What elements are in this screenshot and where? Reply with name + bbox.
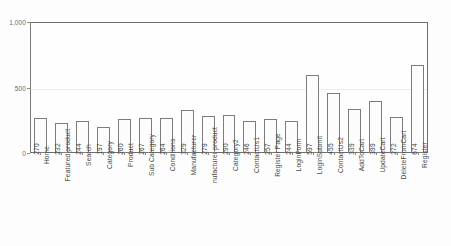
x-tick-mark [145,153,146,155]
bar-group: 455 [327,22,340,153]
bar-group: 399 [369,22,382,153]
bar-group: 339 [348,22,361,153]
x-tick-mark [124,153,125,155]
x-axis-tick-label: Conditions [169,139,176,172]
bar-value-label: 264 [159,143,166,155]
x-tick-mark [355,153,356,155]
x-axis-tick-label: Category [106,141,113,169]
x-axis-tick-label: Register Page [274,133,281,177]
bar-group: 244 [76,22,89,153]
x-axis-tick-label: Register [421,142,428,168]
bar-value-label: 246 [243,143,250,155]
bar-value-label: 267 [138,143,145,155]
bar-group: 260 [118,22,131,153]
y-axis: 05001,000 [0,0,30,246]
bar-value-label: 339 [348,143,355,155]
x-axis-tick-label: DeleteFromCart [400,131,407,180]
x-tick-mark [376,153,377,155]
bars-layer: 2702322441972602672643292792902462572445… [30,22,428,153]
x-tick-mark [271,153,272,155]
bar-value-label: 272 [390,143,397,155]
x-axis-tick-label: Product [127,143,134,167]
bar-group: 246 [243,22,256,153]
x-tick-mark [250,153,251,155]
x-axis-tick-label: Category2 [232,139,239,171]
x-tick-mark [229,153,230,155]
x-axis-tick-label: UpdateCart [379,137,386,172]
bar-value-label: 279 [201,143,208,155]
x-tick-mark [187,153,188,155]
bar-group: 264 [160,22,173,153]
x-axis-tick-label: AddToCart [358,139,365,172]
bar-group: 244 [285,22,298,153]
bar: 674 [411,65,424,153]
bar-value-label: 244 [75,143,82,155]
x-axis-tick-label: nufacturer product [211,127,218,183]
bar-value-label: 329 [180,143,187,155]
x-tick-mark [40,153,41,155]
y-tick-mark [27,153,30,154]
bar-value-label: 674 [411,143,418,155]
x-axis-tick-label: LoginForm [295,139,302,172]
bar-value-label: 597 [306,143,313,155]
bar-value-label: 455 [327,143,334,155]
x-tick-mark [418,153,419,155]
x-axis-tick-label: Home [43,146,50,164]
y-tick-label: 0 [22,150,26,157]
x-tick-mark [397,153,398,155]
x-axis-labels: HomeFeatured productSearchCategoryProduc… [30,155,428,246]
x-axis-tick-label: Featured product [64,129,71,182]
x-axis-tick-label: Sub Category [148,134,155,176]
x-tick-mark [334,153,335,155]
x-tick-mark [166,153,167,155]
x-tick-mark [82,153,83,155]
bar-value-label: 232 [54,143,61,155]
y-tick-label: 1,000 [9,19,26,26]
bar-value-label: 290 [222,143,229,155]
y-tick-label: 500 [15,84,26,91]
bar-value-label: 244 [285,143,292,155]
x-tick-mark [61,153,62,155]
bar-value-label: 260 [117,143,124,155]
bar-group: 674 [411,22,424,153]
bar-group: 270 [34,22,47,153]
bar-value-label: 197 [96,143,103,155]
x-axis-tick-label: Manufacturer [190,135,197,176]
x-axis-tick-label: ContactUs2 [337,137,344,173]
x-tick-mark [208,153,209,155]
bar-chart: 05001,000 270232244197260267264329279290… [0,0,451,246]
x-tick-mark [103,153,104,155]
bar-group: 197 [97,22,110,153]
bar-value-label: 399 [369,143,376,155]
bar-group: 597 [306,22,319,153]
x-axis-tick-label: Search [85,144,92,166]
x-axis-tick-label: LoginSubmit [316,136,323,174]
x-tick-mark [313,153,314,155]
x-tick-mark [292,153,293,155]
bar-value-label: 257 [264,143,271,155]
bar-group: 290 [223,22,236,153]
bar-value-label: 270 [33,143,40,155]
x-axis-tick-label: ContactUs1 [253,137,260,173]
